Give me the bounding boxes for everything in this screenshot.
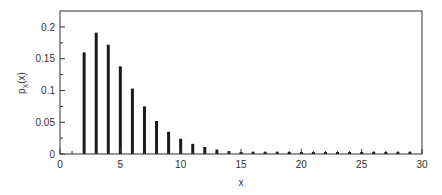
y-tick-label: 0.1	[41, 85, 55, 96]
x-tick-label: 25	[356, 159, 368, 170]
svg-text:pX(x): pX(x)	[16, 72, 29, 94]
x-axis-label: x	[239, 177, 244, 188]
x-tick-label: 5	[118, 159, 124, 170]
plot-border	[60, 11, 422, 154]
x-tick-label: 0	[57, 159, 63, 170]
y-tick-label: 0.05	[36, 117, 56, 128]
x-tick-label: 30	[416, 159, 428, 170]
x-tick-label: 15	[235, 159, 247, 170]
y-tick-label: 0.15	[36, 53, 56, 64]
x-tick-label: 20	[296, 159, 308, 170]
stem-chart: 051015202530 00.050.10.150.2 x pX(x)	[0, 0, 442, 195]
y-tick-label: 0.2	[41, 22, 55, 33]
y-axis: 00.050.10.150.2	[36, 22, 65, 160]
x-tick-label: 10	[175, 159, 187, 170]
y-tick-label: 0	[49, 149, 55, 160]
plot-frame	[60, 11, 422, 154]
stem-series	[84, 33, 410, 154]
y-axis-label: pX(x)	[16, 72, 29, 94]
